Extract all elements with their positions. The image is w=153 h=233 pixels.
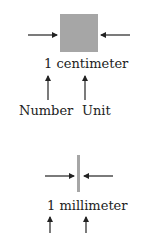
millimeter-bar bbox=[77, 155, 80, 192]
millimeter-label: 1 millimeter bbox=[47, 199, 128, 212]
number-label: Number bbox=[19, 104, 73, 117]
unit-label: Unit bbox=[82, 104, 111, 117]
centimeter-label: 1 centimeter bbox=[44, 57, 128, 70]
centimeter-square bbox=[60, 14, 98, 52]
